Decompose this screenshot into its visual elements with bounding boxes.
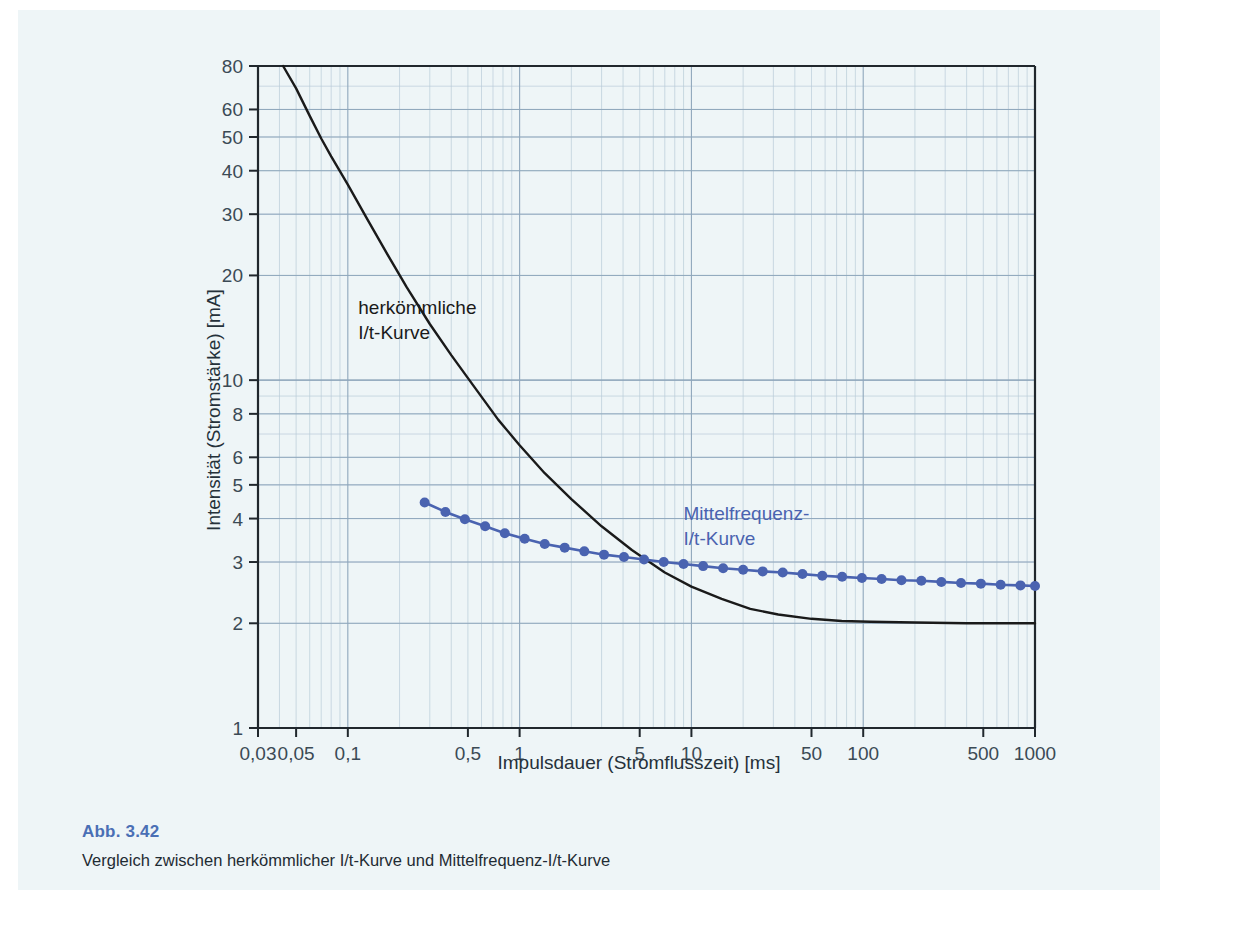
data-point-marker <box>956 578 966 588</box>
series-line-0 <box>283 66 1035 623</box>
data-point-marker <box>916 576 926 586</box>
series-annotation-0: herkömmliche <box>358 297 476 318</box>
x-tick-label: 500 <box>967 743 999 764</box>
data-point-marker <box>698 561 708 571</box>
y-axis-title: Intensität (Stromstärke) [mA] <box>203 289 224 531</box>
y-tick-label: 20 <box>222 265 243 286</box>
data-point-marker <box>936 577 946 587</box>
data-point-marker <box>520 534 530 544</box>
data-point-marker <box>837 572 847 582</box>
x-tick-label: 50 <box>801 743 822 764</box>
data-series-layer <box>283 66 1040 623</box>
x-tick-label: 100 <box>847 743 879 764</box>
y-tick-label: 8 <box>232 404 243 425</box>
y-tick-label: 40 <box>222 161 243 182</box>
series-annotation-1: I/t-Kurve <box>684 528 756 549</box>
data-point-marker <box>540 539 550 549</box>
data-point-marker <box>996 580 1006 590</box>
y-tick-label: 2 <box>232 613 243 634</box>
y-tick-label: 30 <box>222 204 243 225</box>
data-point-marker <box>857 573 867 583</box>
caption-block: Abb. 3.42 Vergleich zwischen herkömmlich… <box>82 822 1062 870</box>
series-annotation-1: Mittelfrequenz- <box>684 503 810 524</box>
y-tick-label: 1 <box>232 718 243 739</box>
data-point-marker <box>877 574 887 584</box>
y-tick-label: 10 <box>222 370 243 391</box>
y-tick-label: 4 <box>232 509 243 530</box>
data-point-marker <box>460 514 470 524</box>
data-point-marker <box>420 497 430 507</box>
data-point-marker <box>599 550 609 560</box>
data-point-marker <box>778 567 788 577</box>
data-point-marker <box>797 569 807 579</box>
data-point-marker <box>440 507 450 517</box>
data-point-marker <box>500 528 510 538</box>
x-tick-label: 0,05 <box>278 743 315 764</box>
data-point-marker <box>679 559 689 569</box>
data-point-marker <box>1015 580 1025 590</box>
data-point-marker <box>480 521 490 531</box>
series-annotation-0: I/t-Kurve <box>358 322 430 343</box>
y-tick-label: 60 <box>222 99 243 120</box>
figure-caption: Vergleich zwischen herkömmlicher I/t-Kur… <box>82 851 1062 870</box>
plot-frame <box>258 66 1035 728</box>
major-gridlines <box>258 66 1035 728</box>
minor-gridlines <box>258 66 1035 728</box>
data-point-marker <box>659 557 669 567</box>
data-point-marker <box>896 575 906 585</box>
data-point-marker <box>817 571 827 581</box>
data-point-marker <box>738 565 748 575</box>
y-tick-label: 5 <box>232 475 243 496</box>
data-point-marker <box>579 546 589 556</box>
x-axis-title: Impulsdauer (Stromflusszeit) [ms] <box>498 752 781 773</box>
y-tick-label: 3 <box>232 552 243 573</box>
x-tick-label: 0,5 <box>455 743 481 764</box>
data-point-marker <box>976 579 986 589</box>
data-point-marker <box>1030 581 1040 591</box>
y-tick-label: 50 <box>222 127 243 148</box>
data-point-marker <box>619 552 629 562</box>
data-point-marker <box>560 543 570 553</box>
x-tick-label: 1000 <box>1014 743 1056 764</box>
data-point-marker <box>758 566 768 576</box>
y-tick-label: 6 <box>232 447 243 468</box>
figure-number: Abb. 3.42 <box>82 822 1062 842</box>
x-tick-label: 0,03 <box>240 743 277 764</box>
y-tick-label: 80 <box>222 56 243 77</box>
data-point-marker <box>718 563 728 573</box>
data-point-marker <box>639 555 649 565</box>
figure-panel: 123456810203040506080 0,030,050,10,51510… <box>18 10 1160 890</box>
y-axis-ticks: 123456810203040506080 <box>222 56 258 739</box>
x-tick-label: 0,1 <box>335 743 361 764</box>
chart-plot: 123456810203040506080 0,030,050,10,51510… <box>18 10 1160 810</box>
